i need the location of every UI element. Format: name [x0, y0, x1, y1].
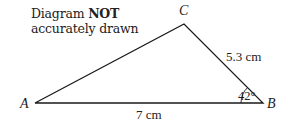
triangle-diagram: Diagram NOT accurately drawn C A B 5.3 c… [0, 0, 288, 124]
vertex-label-b: B [267, 96, 276, 112]
note-prefix: Diagram [31, 6, 88, 21]
side-bc-length: 5.3 cm [226, 49, 261, 65]
not-to-scale-note: Diagram NOT accurately drawn [31, 6, 138, 36]
side-ab-length: 7 cm [136, 107, 162, 123]
vertex-label-a: A [20, 96, 29, 112]
vertex-label-c: C [179, 3, 188, 19]
note-emphasis: NOT [88, 6, 119, 21]
note-line2: accurately drawn [31, 21, 138, 36]
angle-b-value: 42° [238, 89, 256, 104]
